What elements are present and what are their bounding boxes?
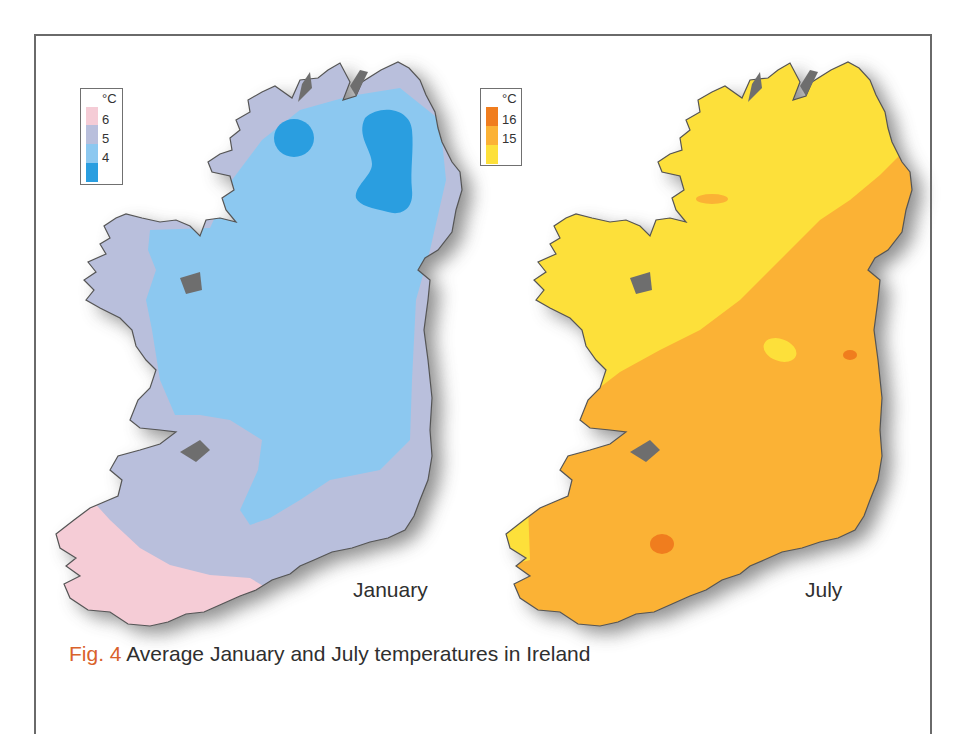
figure-caption: Fig. 4 Average January and July temperat… xyxy=(69,642,590,666)
legend-tick: 16 xyxy=(502,113,516,126)
legend-swatch-below-15 xyxy=(486,145,498,164)
band-above-16-dublin xyxy=(843,350,857,360)
band-15-16-patch xyxy=(696,194,728,204)
legend-swatch-above-6 xyxy=(86,107,98,125)
figure-number: Fig. 4 xyxy=(69,642,122,665)
legend-tick: 4 xyxy=(102,151,109,164)
legend-unit: °C xyxy=(102,91,117,106)
legend-swatch-4-5 xyxy=(86,144,98,163)
band-above-16-cork xyxy=(650,534,674,554)
july-map xyxy=(490,50,930,650)
legend-tick: 6 xyxy=(102,113,109,126)
legend-unit: °C xyxy=(502,91,517,106)
legend-tick: 5 xyxy=(102,132,109,145)
caption-text: Average January and July temperatures in… xyxy=(122,642,591,665)
july-legend: °C 16 15 xyxy=(480,88,522,166)
legend-tick: 15 xyxy=(502,132,516,145)
band-below-4-donegal xyxy=(274,119,314,157)
january-label: January xyxy=(353,578,428,602)
july-label: July xyxy=(805,578,842,602)
legend-swatch-15-16 xyxy=(486,126,498,145)
legend-swatch-above-16 xyxy=(486,107,498,126)
legend-swatch-below-4 xyxy=(86,163,98,182)
legend-swatch-5-6 xyxy=(86,125,98,144)
january-legend: °C 6 5 4 xyxy=(80,88,123,185)
